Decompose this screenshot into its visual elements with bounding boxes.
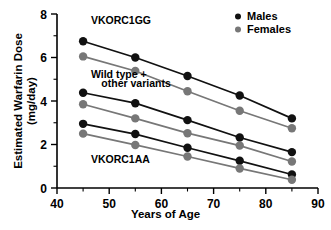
data-point xyxy=(288,157,296,165)
data-point xyxy=(183,144,191,152)
chart-annotation: VKORC1GG xyxy=(91,14,151,26)
data-point xyxy=(288,114,296,122)
x-tick-label: 50 xyxy=(103,197,117,211)
y-tick-label: 0 xyxy=(40,182,47,196)
data-point xyxy=(183,72,191,80)
warfarin-dose-chart: Estimated Warfarin Dose (mg/day) Years o… xyxy=(0,0,331,230)
data-point xyxy=(288,176,296,184)
y-tick-label: 8 xyxy=(40,8,47,22)
y-tick-label: 4 xyxy=(40,95,47,109)
data-point xyxy=(131,53,139,61)
data-point xyxy=(236,133,244,141)
data-point xyxy=(236,91,244,99)
data-point xyxy=(79,120,87,128)
data-point xyxy=(236,107,244,115)
data-point xyxy=(236,164,244,172)
data-point xyxy=(183,116,191,124)
y-tick-label: 2 xyxy=(40,138,47,152)
data-point xyxy=(79,52,87,60)
legend-marker-males xyxy=(235,14,241,20)
data-point xyxy=(79,37,87,45)
data-point xyxy=(131,99,139,107)
x-tick-label: 70 xyxy=(207,197,221,211)
x-tick-label: 90 xyxy=(311,197,325,211)
data-point xyxy=(79,89,87,97)
y-tick-label: 6 xyxy=(40,51,47,65)
data-point xyxy=(183,152,191,160)
chart-annotation: other variants xyxy=(101,77,171,89)
data-point xyxy=(236,141,244,149)
legend-marker-females xyxy=(235,27,241,33)
data-point xyxy=(236,157,244,165)
x-tick-label: 80 xyxy=(259,197,273,211)
data-point xyxy=(131,141,139,149)
plot-area: 40506070809002468VKORC1GGWild type +othe… xyxy=(0,0,331,230)
data-point xyxy=(183,87,191,95)
chart-annotation: VKORC1AA xyxy=(91,153,150,165)
data-point xyxy=(79,100,87,108)
data-point xyxy=(131,114,139,122)
data-point xyxy=(183,129,191,137)
data-point xyxy=(79,129,87,137)
data-point xyxy=(131,130,139,138)
data-point xyxy=(288,124,296,132)
x-tick-label: 40 xyxy=(50,197,64,211)
legend-label-males: Males xyxy=(247,10,278,22)
x-tick-label: 60 xyxy=(155,197,169,211)
legend-label-females: Females xyxy=(247,23,291,35)
data-point xyxy=(288,148,296,156)
